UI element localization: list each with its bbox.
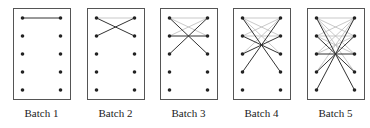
right-node (59, 34, 63, 38)
right-node (206, 70, 210, 74)
left-node (168, 70, 172, 74)
left-node (315, 52, 319, 56)
batch-label: Batch 3 (152, 107, 226, 119)
batch-label: Batch 4 (225, 107, 299, 119)
right-node (279, 16, 283, 20)
left-node (315, 34, 319, 38)
left-node (21, 70, 25, 74)
right-node (133, 34, 137, 38)
batch-label: Batch 1 (5, 107, 79, 119)
right-node (353, 52, 357, 56)
right-node (353, 16, 357, 20)
right-node (59, 70, 63, 74)
right-node (206, 16, 210, 20)
batch-panel-2 (88, 9, 145, 100)
right-node (133, 70, 137, 74)
right-node (133, 52, 137, 56)
right-node (353, 88, 357, 92)
right-node (206, 88, 210, 92)
batch-label: Batch 5 (299, 107, 370, 119)
left-node (21, 16, 25, 20)
right-node (59, 88, 63, 92)
left-node (315, 70, 319, 74)
left-node (168, 34, 172, 38)
left-node (315, 16, 319, 20)
right-node (133, 16, 137, 20)
left-node (21, 34, 25, 38)
right-node (353, 70, 357, 74)
batch-panel-3 (161, 9, 218, 100)
right-node (206, 34, 210, 38)
left-node (21, 52, 25, 56)
batch-label: Batch 2 (79, 107, 153, 119)
left-node (241, 88, 245, 92)
left-node (95, 70, 99, 74)
batch-panel-5 (308, 9, 365, 100)
left-node (168, 88, 172, 92)
right-node (59, 52, 63, 56)
right-node (206, 52, 210, 56)
right-node (279, 70, 283, 74)
right-node (279, 34, 283, 38)
batch-panel-4 (234, 9, 291, 100)
left-node (241, 16, 245, 20)
right-node (279, 52, 283, 56)
right-node (353, 34, 357, 38)
right-node (133, 88, 137, 92)
left-node (95, 16, 99, 20)
left-node (241, 70, 245, 74)
left-node (21, 88, 25, 92)
left-node (95, 52, 99, 56)
left-node (241, 52, 245, 56)
left-node (95, 34, 99, 38)
left-node (168, 16, 172, 20)
left-node (315, 88, 319, 92)
left-node (95, 88, 99, 92)
batch-panel-1 (14, 9, 71, 100)
right-node (59, 16, 63, 20)
left-node (241, 34, 245, 38)
right-node (279, 88, 283, 92)
left-node (168, 52, 172, 56)
